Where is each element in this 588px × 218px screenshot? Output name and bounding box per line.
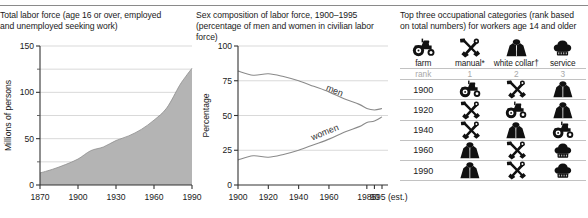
rank-cell-2: [493, 121, 540, 141]
x-tick-label: 1900: [68, 192, 87, 202]
wrench-head-hole: [522, 82, 524, 84]
tractor-cab: [423, 41, 429, 44]
hammer-head: [461, 101, 466, 105]
chart-total-labor-force: 05010015018701900193019601990Millions of…: [0, 40, 196, 218]
table-row: 1900: [400, 80, 586, 100]
wrench-head-hole: [476, 40, 478, 42]
header-label-farm: farm: [400, 58, 447, 69]
y-tick-label: 50: [222, 111, 232, 121]
panel-b-caption: Sex composition of labor force, 1900–199…: [196, 10, 392, 44]
header-icon-cell-white-collar: [493, 38, 540, 58]
panel-c-caption: Top three occupational categories (rank …: [400, 10, 588, 32]
shirt-icon: [504, 38, 529, 58]
rank-number-1: 1: [447, 69, 494, 80]
header-label-manual: manual*: [447, 58, 494, 69]
tractor-cab: [470, 83, 475, 85]
x-tick-label: 1930: [106, 192, 125, 202]
chef-hat-crown: [554, 164, 571, 174]
rank-number-3: 3: [540, 69, 587, 80]
hammer-wrench-icon: [458, 101, 482, 120]
y-tick-label: 25: [222, 145, 232, 155]
rank-cell-3: [540, 100, 587, 120]
row-year-label: 1960: [400, 141, 447, 161]
chef-hat-crown: [554, 41, 572, 52]
y-tick-label: 100: [20, 87, 35, 97]
table-row: 1940: [400, 121, 586, 141]
wrench-head-hole: [475, 103, 477, 105]
tractor-icon: [411, 38, 436, 58]
tractor-cab: [516, 103, 521, 105]
y-tick-label: 100: [218, 41, 233, 51]
shirt-icon: [458, 161, 482, 180]
table-row: 1920: [400, 100, 586, 120]
rank-cell-1: [447, 161, 494, 181]
series-label-men: men: [325, 83, 345, 99]
series-label-women: women: [309, 122, 341, 143]
hammer-head: [507, 81, 512, 85]
tractor-wheel-rear-axle: [464, 91, 466, 93]
rank-number-2: 2: [493, 69, 540, 80]
tractor-wheel-front-hub: [522, 113, 525, 116]
rank-cell-2: [493, 80, 540, 100]
tractor-icon: [551, 121, 575, 140]
panel-b-caption-line1: Sex composition of labor force, 1900–199…: [196, 10, 386, 21]
panel-top-occupations: Top three occupational categories (rank …: [400, 10, 588, 218]
rank-cell-1: [447, 141, 494, 161]
shirt-placket: [469, 168, 470, 178]
table-row: 1990: [400, 161, 586, 181]
tractor-icon: [458, 80, 482, 99]
chef-hat-crown: [554, 143, 571, 153]
line-series-women: [238, 117, 382, 160]
rank-cell-3: [540, 161, 587, 181]
hammer-head: [507, 141, 512, 145]
y-tick-label: 150: [20, 41, 35, 51]
row-year-label: 1920: [400, 100, 447, 120]
header-icon-cell-service: [540, 38, 587, 58]
panel-sex-composition: Sex composition of labor force, 1900–199…: [196, 10, 392, 218]
rank-cell-2: [493, 100, 540, 120]
tractor-wheel-front-hub: [568, 133, 571, 136]
tractor-wheel-rear-axle: [511, 111, 513, 113]
panel-c-caption-line1: Top three occupational categories (rank …: [400, 10, 588, 21]
hammer-wrench-icon: [458, 121, 482, 140]
table-divider: [400, 181, 586, 182]
rank-cell-2: [493, 141, 540, 161]
panel-a-caption-line2: and unemployed seeking work): [0, 21, 190, 32]
panel-c-caption-line2: on total numbers) for workers age 14 and…: [400, 21, 588, 32]
header-label-white-collar: white collar†: [493, 58, 540, 69]
x-tick-label: 1940: [289, 192, 308, 202]
shirt-placket: [516, 45, 517, 56]
rank-row-label: rank: [400, 69, 447, 80]
panel-total-labor-force: Total labor force (age 16 or over, emplo…: [0, 10, 196, 218]
tractor-wheel-front-hub: [475, 92, 478, 95]
hammer-head: [460, 38, 465, 42]
hammer-wrench-icon: [504, 161, 528, 180]
figure-root: Total labor force (age 16 or over, emplo…: [0, 0, 588, 218]
wrench-head-hole: [475, 123, 477, 125]
occupations-header-icons: [400, 38, 586, 58]
y-tick-label: 50: [24, 134, 34, 144]
tractor-wheel-front-hub: [429, 51, 432, 54]
shirt-icon: [551, 101, 575, 120]
row-year-label: 1900: [400, 80, 447, 100]
shirt-icon: [504, 121, 528, 140]
tractor-cab: [563, 123, 568, 125]
hammer-wrench-icon: [457, 38, 482, 58]
row-year-label: 1940: [400, 121, 447, 141]
x-tick-label: 1900: [228, 192, 247, 202]
x-tick-label: 1960: [319, 192, 338, 202]
chef-hat-icon: [550, 38, 575, 58]
line-series-men: [238, 71, 382, 110]
hammer-head: [461, 121, 466, 125]
chef-hat-icon: [551, 161, 575, 180]
tractor-exhaust: [421, 39, 423, 43]
y-axis-title: Millions of persons: [3, 80, 13, 151]
hammer-wrench-icon: [504, 141, 528, 160]
x-tick-label: 1870: [30, 192, 49, 202]
chef-hat-icon: [551, 141, 575, 160]
header-label-service: service: [540, 58, 587, 69]
y-tick-label: 75: [222, 76, 232, 86]
panel-a-caption: Total labor force (age 16 or over, emplo…: [0, 10, 196, 32]
rank-cell-1: [447, 121, 494, 141]
panel-a-caption-line1: Total labor force (age 16 or over, emplo…: [0, 10, 190, 21]
